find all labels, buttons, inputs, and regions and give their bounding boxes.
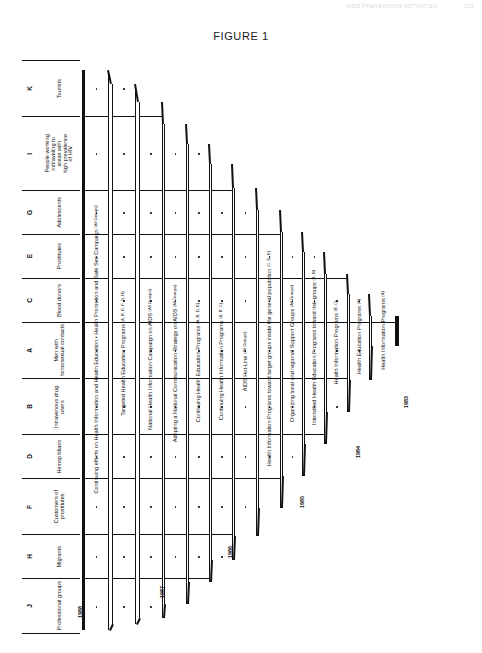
- band-row-tick: [234, 434, 257, 435]
- program-band-groups: (All Groups): [242, 332, 247, 354]
- band-row-tick: [188, 478, 210, 479]
- group-code: E: [22, 235, 39, 278]
- group-code: A: [22, 323, 39, 378]
- band-row-tick: [112, 578, 136, 579]
- band-row-tick: [188, 578, 210, 579]
- group-code: H: [22, 535, 39, 578]
- band-row-marker: [245, 506, 247, 508]
- band-row-tick: [84, 190, 109, 191]
- group-name: Intravenous drugusers: [39, 379, 80, 434]
- wedge-top-edge: [208, 144, 211, 164]
- band-row-marker: [292, 456, 294, 458]
- group-name: Prostitutes: [39, 235, 80, 278]
- band-row-marker: [123, 506, 125, 508]
- band-row-tick: [326, 278, 348, 279]
- band-row-marker: [314, 256, 316, 258]
- group-name: Professional groups: [39, 579, 80, 633]
- band-row-tick: [112, 278, 136, 279]
- band-row-marker: [123, 556, 125, 558]
- year-label: 1983: [404, 396, 410, 409]
- group-code-text: E: [27, 254, 34, 258]
- band-row-marker: [96, 556, 98, 558]
- band-row-marker: [150, 212, 152, 214]
- band-row-marker: [245, 456, 247, 458]
- wedge-top-edge: [301, 232, 304, 252]
- program-band-label-text: Organizing local and regional Support Gr…: [290, 285, 296, 422]
- group-row: JProfessional groups: [22, 578, 80, 634]
- band-row-tick: [164, 534, 187, 535]
- band-row-tick: [234, 322, 257, 323]
- band-row-tick: [304, 434, 325, 435]
- group-code: D: [22, 435, 39, 478]
- program-band-label: Continuing Health Information Programs (…: [219, 303, 225, 421]
- band-row-tick: [282, 434, 303, 435]
- band-row-tick: [84, 578, 109, 579]
- band-row-marker: [292, 256, 294, 258]
- group-code: F: [22, 479, 39, 534]
- program-band: Continuing efforts on Health Information…: [84, 70, 109, 630]
- program-band-label-text: Adopting a National Communication Strate…: [173, 285, 179, 443]
- program-band-label: Adopting a National Communication Strate…: [173, 285, 179, 444]
- year-label-text: 1983: [404, 396, 410, 408]
- wedge-bottom-edge: [109, 624, 113, 631]
- group-row: HMigrants: [22, 534, 80, 578]
- band-row-marker: [175, 153, 177, 155]
- program-band: Targeted Health Education Programs (A, B…: [112, 84, 136, 624]
- group-axis-table: KTouristsIPeople workingin/traveling toa…: [22, 60, 80, 630]
- program-band: AIDS Hot-Line (All Groups): [234, 188, 257, 536]
- band-row-tick: [139, 578, 163, 579]
- group-name-text: People workingin/traveling toareas withh…: [45, 134, 74, 174]
- band-row-tick: [112, 116, 136, 117]
- band-row-marker: [123, 88, 125, 90]
- year-label-text: 1985: [300, 496, 306, 508]
- band-row-marker: [221, 506, 223, 508]
- wedge-left-edge: [82, 70, 84, 630]
- band-row-tick: [139, 116, 163, 117]
- program-band-label-text: Health Information Programs (B, C): [334, 301, 340, 385]
- group-code-text: J: [27, 604, 34, 608]
- wedge-diagram: KTouristsIPeople workingin/traveling toa…: [0, 46, 482, 646]
- group-code: G: [22, 191, 39, 234]
- wedge-top-edge: [231, 164, 234, 188]
- band-row-tick: [282, 278, 303, 279]
- wedge-bottom-edge: [187, 582, 190, 604]
- band-row-marker: [198, 556, 200, 558]
- program-band-label-text: Health Information Programs toward targe…: [267, 251, 273, 466]
- wedge-bottom-edge: [257, 508, 260, 536]
- figure-caption-text: FIGURE 1: [213, 30, 269, 42]
- program-band-groups: (A, B, E, F, G, H): [120, 291, 125, 322]
- program-band-groups: (All Groups): [289, 285, 294, 307]
- band-row-tick: [164, 190, 187, 191]
- program-band-label: Health Information Programs (A): [381, 291, 387, 371]
- band-row-tick: [211, 534, 233, 535]
- program-band: Adopting a National Communication Strate…: [164, 124, 187, 604]
- program-band-groups: (A, B): [311, 270, 316, 281]
- year-label: 1985: [300, 496, 306, 509]
- band-row-tick: [112, 190, 136, 191]
- year-label: 1987: [160, 586, 166, 599]
- band-row-tick: [164, 478, 187, 479]
- band-row-tick: [112, 234, 136, 235]
- year-label: 1984: [356, 446, 362, 459]
- program-band-label: Continuing efforts on Health Information…: [94, 205, 100, 494]
- wedge-bottom-edge: [348, 380, 351, 412]
- wedge-top-edge: [279, 210, 282, 232]
- program-band-groups: (All Groups): [93, 205, 98, 227]
- wedge-top-edge: [368, 294, 371, 316]
- band-row-marker: [198, 212, 200, 214]
- band-row-marker: [150, 606, 152, 608]
- band-row-tick: [112, 534, 136, 535]
- wedge-top-edge: [323, 252, 326, 274]
- band-row-marker: [245, 256, 247, 258]
- running-head-title: AIDS PREVENTION ACTIVITIES: [346, 3, 438, 9]
- band-row-tick: [188, 234, 210, 235]
- band-row-tick: [164, 578, 187, 579]
- group-name: Tourists: [39, 61, 80, 116]
- band-row-marker: [96, 153, 98, 155]
- year-label-text: 1987: [160, 586, 166, 598]
- band-row-marker: [175, 456, 177, 458]
- program-band-label: Health Information Programs toward targe…: [267, 251, 273, 467]
- group-name: Men withhomosexual contacts: [39, 323, 80, 378]
- band-row-marker: [245, 212, 247, 214]
- program-band-label: Health Information Programs (B, C): [334, 301, 340, 386]
